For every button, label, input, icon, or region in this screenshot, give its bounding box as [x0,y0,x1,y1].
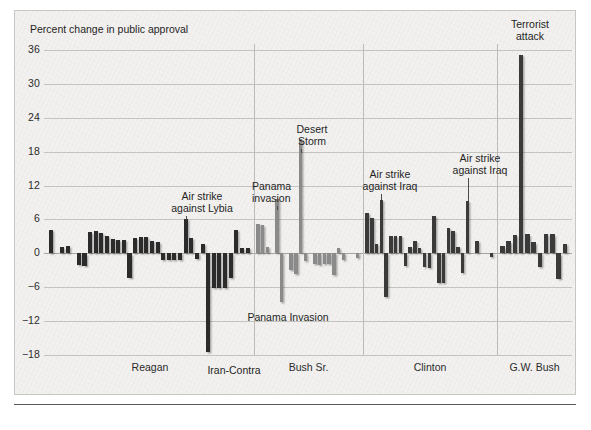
bar [428,253,431,268]
annotation-lybia: Air strike against Lybia [156,190,248,214]
bar [240,248,244,254]
bar [423,253,426,267]
annotation-leader-line [301,149,302,153]
bar [66,246,70,253]
bar [365,213,368,254]
bar [389,236,392,254]
bar [261,225,264,253]
bar [229,253,233,278]
y-tick-label: 12 [6,179,40,191]
bar [178,253,182,260]
bar [456,247,459,253]
y-axis-title: Percent change in public approval [30,23,188,35]
bar [266,247,269,253]
bar [116,240,120,254]
annotation-leader-line [468,178,469,201]
annotation-leader-line [381,194,382,200]
bar [437,253,440,282]
bar [150,241,154,253]
bar [77,253,81,265]
bar [506,241,511,253]
bar [234,230,238,253]
bar [563,244,568,253]
bar [466,201,469,254]
y-tick-label: −12 [6,314,40,326]
bar [127,253,131,278]
bar [172,253,176,260]
y-tick-label: 6 [6,212,40,224]
bar [550,234,555,253]
bar [122,240,126,253]
annotation-panama-invasion-bottom: Panama Invasion [240,311,336,323]
bar [538,253,543,267]
bar [280,253,283,302]
bar [94,231,98,253]
bar [531,242,536,253]
bar [337,248,340,254]
annotation-terrorist-attack: Terrorist attack [490,18,570,42]
bar [413,241,416,253]
gridline-neg6 [44,287,572,288]
bar [327,253,330,264]
bar [513,235,518,254]
era-divider-2 [363,44,364,355]
bar [144,237,148,253]
annotation-panama-invasion-top: Panama invasion [252,180,312,204]
bar [304,253,307,260]
bar [394,236,397,254]
bar [323,253,326,264]
bottom-rule [14,404,576,405]
gridline-6 [44,219,572,220]
bar [49,230,53,254]
gridline-36 [44,50,572,51]
bar [544,234,549,253]
bar [223,253,227,287]
bar [195,253,199,259]
annotation-desert-storm: Desert Storm [284,123,340,147]
bar [375,244,378,253]
bar [99,233,103,253]
bar [475,241,478,253]
bar [189,238,193,254]
bar [206,253,210,351]
bar [500,246,505,253]
era-label-gw_bush: G.W. Bush [497,361,572,373]
bar [294,253,297,273]
bar [289,253,292,270]
y-tick-label: 36 [6,43,40,55]
y-tick-label: 18 [6,145,40,157]
bar [556,253,561,279]
era-divider-3 [497,44,498,355]
bar [447,228,450,253]
bar [342,253,345,260]
gridline-24 [44,118,572,119]
bar [256,224,259,253]
annotation-leader-line [277,206,278,210]
era-label-reagan: Reagan [46,361,254,373]
bar [167,253,171,259]
bar [60,247,64,254]
bar [217,253,221,287]
bar [356,253,359,258]
y-tick-label: 0 [6,246,40,258]
bar [246,248,250,254]
bar [313,253,316,264]
gridline-neg18 [44,355,572,356]
bar [461,253,464,272]
y-tick-label: 30 [6,77,40,89]
bar [212,253,216,288]
bar [133,238,137,254]
bar [184,219,188,253]
y-tick-label: 24 [6,111,40,123]
y-tick-label: −6 [6,280,40,292]
bar [332,253,335,275]
gridline-30 [44,84,572,85]
era-label-bush_sr: Bush Sr. [254,361,363,373]
bar [384,253,387,297]
annotation-leader-line [186,216,187,220]
bar [404,253,407,266]
bar [370,218,373,253]
bar [111,239,115,254]
bar [418,248,421,254]
annotation-iraq-2: Air strike against Iraq [440,152,520,176]
